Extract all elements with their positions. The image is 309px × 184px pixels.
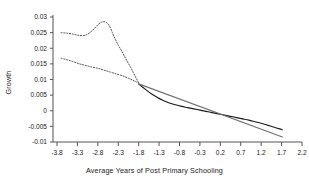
x-tick-label: -1.8 [133,149,145,156]
y-tick-label: 0 [43,107,47,114]
axes [53,15,302,142]
series-line [139,84,283,130]
x-axis-title: Average Years of Post Primary Schooling [0,166,309,175]
y-tick-label: 0.005 [30,91,47,98]
x-tick-group: -3.8-3.3-2.8-2.3-1.8-1.3-0.8-0.30.20.71.… [51,142,307,156]
growth-schooling-chart: 0.030.0250.020.0150.010.0050-0.005-0.01 … [0,0,309,184]
y-tick-label: 0.02 [34,45,47,52]
y-axis-title: Growth [4,59,13,107]
x-tick-label: 0.7 [236,149,245,156]
y-tick-label: 0.01 [34,76,47,83]
x-tick-label: -0.8 [174,149,186,156]
x-tick-label: -2.3 [113,149,125,156]
y-tick-group: 0.030.0250.020.0150.010.0050-0.005-0.01 [28,13,53,145]
x-tick-label: 0.2 [216,149,225,156]
plot-area: 0.030.0250.020.0150.010.0050-0.005-0.01 … [0,0,309,184]
x-tick-label: -2.8 [92,149,104,156]
x-tick-label: -3.8 [51,149,63,156]
y-tick-label: -0.005 [28,123,47,130]
x-tick-label: 1.7 [277,149,286,156]
data-series-group [61,22,282,137]
series-line [139,84,283,137]
x-tick-label: 1.2 [257,149,266,156]
y-tick-label: 0.015 [30,60,47,67]
x-tick-label: -3.3 [72,149,84,156]
x-tick-label: 2.2 [297,149,306,156]
y-tick-label: -0.01 [32,138,47,145]
y-tick-label: 0.03 [34,13,47,20]
series-line [61,22,139,83]
x-tick-label: -1.3 [153,149,165,156]
y-tick-label: 0.025 [30,29,47,36]
x-tick-label: -0.3 [194,149,206,156]
